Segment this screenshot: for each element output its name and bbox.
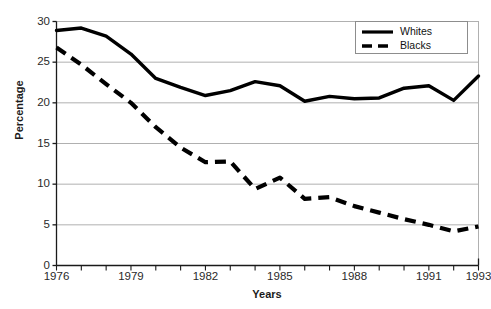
x-tick-label: 1988 <box>342 270 368 282</box>
solid-line-icon <box>361 27 394 37</box>
legend-item-blacks: Blacks <box>361 39 462 52</box>
dashed-line-icon <box>361 41 394 51</box>
x-tick-label: 1985 <box>267 270 293 282</box>
x-tick-label: 1982 <box>193 270 219 282</box>
x-tick-label: 1991 <box>416 270 442 282</box>
legend-item-whites: Whites <box>361 25 462 38</box>
x-tick-label: 1993 <box>466 270 491 282</box>
y-axis-title: Percentage <box>13 55 25 165</box>
chart-legend: Whites Blacks <box>355 21 468 54</box>
legend-label-whites: Whites <box>400 26 432 37</box>
x-tick-label: 1976 <box>44 270 70 282</box>
x-tick-label: 1979 <box>118 270 144 282</box>
legend-label-blacks: Blacks <box>400 40 431 51</box>
x-axis-title: Years <box>56 288 478 300</box>
